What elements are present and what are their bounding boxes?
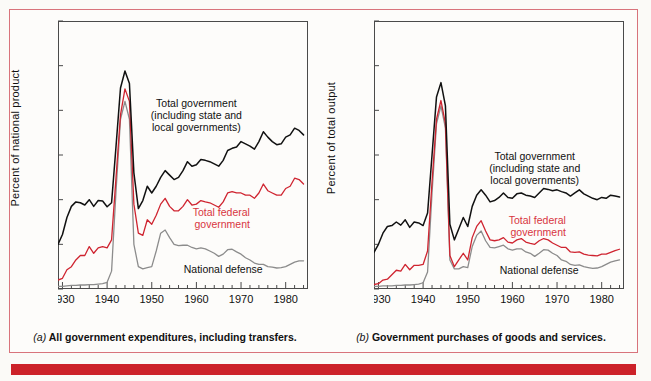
x-tick-label: 1930 [58, 293, 75, 305]
series-line [58, 89, 304, 280]
x-tick-label: 1930 [374, 293, 391, 305]
x-tick-label: 1980 [589, 293, 613, 305]
series-line [374, 106, 620, 286]
panel-b-plot-area: 0102030405060193019401950196019701980 [374, 19, 626, 315]
panel-a-plot-area: 0102030405060193019401950196019701980 [58, 19, 310, 315]
panel-b-caption-text: Government purchases of goods and servic… [369, 331, 606, 343]
panel-b-caption-label: (b) [356, 331, 369, 343]
figure-page: Percent of national product 010203040506… [0, 0, 651, 381]
panel-a-caption: (a) All government expenditures, includi… [10, 331, 320, 343]
x-tick-label: 1940 [95, 293, 119, 305]
panel-b-y-axis-label: Percent of total output [324, 13, 338, 263]
x-tick-label: 1960 [184, 293, 208, 305]
panel-a-caption-label: (a) [33, 331, 46, 343]
x-tick-label: 1940 [411, 293, 435, 305]
chart-panel-b: Percent of total output 0102030405060193… [326, 13, 636, 353]
x-tick-label: 1960 [500, 293, 524, 305]
x-tick-label: 1970 [229, 293, 253, 305]
x-tick-label: 1970 [545, 293, 569, 305]
x-tick-label: 1950 [140, 293, 164, 305]
panel-a-y-axis-label: Percent of national product [8, 13, 22, 263]
series-line [374, 83, 620, 253]
panel-b-caption: (b) Government purchases of goods and se… [326, 331, 636, 343]
panel-a-caption-text: All government expenditures, including t… [46, 331, 297, 343]
bottom-accent-bar [11, 364, 636, 375]
x-tick-label: 1980 [273, 293, 297, 305]
chart-panel-a: Percent of national product 010203040506… [10, 13, 320, 353]
series-line [58, 71, 304, 244]
x-tick-label: 1950 [456, 293, 480, 305]
series-line [58, 101, 304, 286]
